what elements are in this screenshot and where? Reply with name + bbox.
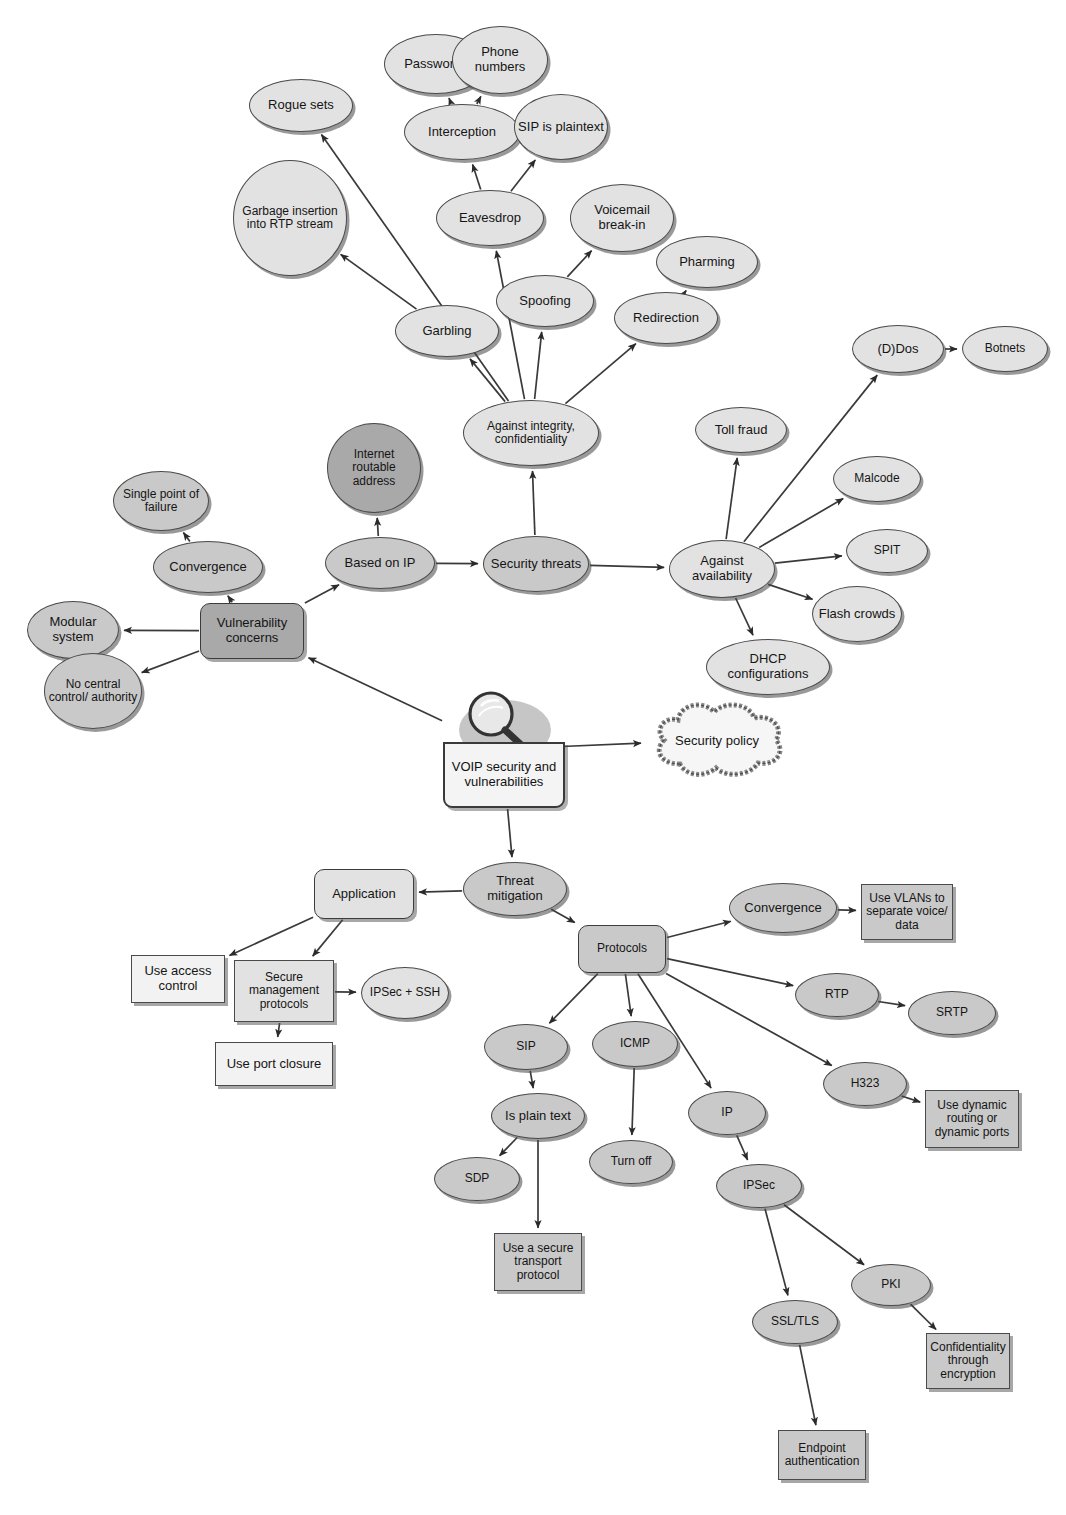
edge-eavesdrop-to-sip_is_plaintext	[511, 160, 535, 191]
node-label: Use VLANs to separate voice/ data	[862, 892, 952, 932]
node-garbage_insertion[interactable]: Garbage insertion into RTP stream	[233, 160, 347, 276]
node-endpoint_auth[interactable]: Endpoint authentication	[778, 1430, 866, 1480]
node-label: Voicemail break-in	[571, 203, 673, 232]
edge-against_availability-to-flash_crowds	[768, 584, 812, 599]
node-internet_routable[interactable]: Internet routable address	[327, 423, 421, 513]
edge-against_integrity-to-rogue_sets	[321, 135, 508, 401]
node-vulnerability_concerns[interactable]: Vulnerability concerns	[200, 603, 304, 659]
node-use_secure_transport[interactable]: Use a secure transport protocol	[494, 1233, 582, 1291]
node-no_central_control[interactable]: No central control/ authority	[44, 653, 142, 729]
edge-convergence_p-to-use_vlans	[838, 910, 856, 911]
node-single_point[interactable]: Single point of failure	[113, 471, 209, 531]
node-pki[interactable]: PKI	[851, 1264, 931, 1306]
node-ipsec_ssh[interactable]: IPSec + SSH	[361, 967, 449, 1019]
node-convergence_v[interactable]: Convergence	[153, 541, 263, 593]
node-label: SIP is plaintext	[515, 120, 607, 135]
node-pharming[interactable]: Pharming	[656, 236, 758, 288]
edge-interception-to-passwords	[449, 98, 451, 104]
edge-security_threats-to-against_integrity	[533, 471, 535, 535]
node-is_plain_text[interactable]: Is plain text	[491, 1093, 585, 1139]
node-use_port_closure[interactable]: Use port closure	[215, 1042, 333, 1086]
node-label: DHCP configurations	[707, 652, 829, 681]
node-label: Security policy	[675, 733, 759, 748]
node-redirection[interactable]: Redirection	[614, 292, 718, 344]
node-label: Phone numbers	[453, 45, 547, 74]
edge-application-to-secure_mgmt_protocols	[313, 920, 343, 956]
node-confidentiality[interactable]: Confidentiality through encryption	[926, 1333, 1010, 1389]
node-rtp[interactable]: RTP	[795, 973, 879, 1017]
node-label: Malcode	[851, 472, 902, 485]
node-label: Toll fraud	[712, 423, 771, 438]
node-sdp[interactable]: SDP	[434, 1157, 520, 1201]
node-label: Internet routable address	[328, 448, 420, 488]
node-based_on_ip[interactable]: Based on IP	[325, 537, 435, 589]
edge-against_integrity-to-redirection	[565, 344, 636, 404]
node-label: SSL/TLS	[768, 1315, 822, 1328]
node-modular_system[interactable]: Modular system	[27, 601, 119, 659]
node-label: Redirection	[630, 311, 702, 326]
node-rogue_sets[interactable]: Rogue sets	[249, 79, 353, 132]
node-label: Protocols	[594, 942, 650, 955]
node-ssl_tls[interactable]: SSL/TLS	[752, 1300, 838, 1344]
edge-vulnerability_concerns-to-convergence_v	[228, 596, 232, 602]
node-dhcp_configs[interactable]: DHCP configurations	[706, 639, 830, 695]
node-label: Botnets	[982, 342, 1029, 355]
node-voicemail_breakin[interactable]: Voicemail break-in	[570, 184, 674, 252]
node-srtp[interactable]: SRTP	[908, 991, 996, 1035]
node-interception[interactable]: Interception	[404, 104, 520, 160]
node-botnets[interactable]: Botnets	[962, 326, 1048, 372]
node-use_vlans[interactable]: Use VLANs to separate voice/ data	[861, 884, 953, 940]
node-phone_numbers[interactable]: Phone numbers	[452, 26, 548, 94]
node-threat_mitigation[interactable]: Threat mitigation	[463, 862, 567, 916]
node-label: H323	[848, 1077, 883, 1090]
node-security_policy[interactable]: Security policy	[646, 698, 788, 782]
node-spoofing[interactable]: Spoofing	[496, 275, 594, 327]
edge-against_integrity-to-eavesdrop	[496, 251, 524, 399]
edge-protocols-to-sip	[549, 974, 597, 1024]
edge-redirection-to-pharming	[685, 290, 687, 292]
node-against_availability[interactable]: Against availability	[669, 540, 775, 598]
node-label: Interception	[425, 125, 499, 140]
node-sip_is_plaintext[interactable]: SIP is plaintext	[514, 94, 608, 160]
node-protocols[interactable]: Protocols	[578, 925, 666, 973]
node-turn_off[interactable]: Turn off	[589, 1140, 673, 1184]
edge-secure_mgmt_protocols-to-use_port_closure	[278, 1023, 280, 1037]
node-ip[interactable]: IP	[688, 1091, 766, 1135]
node-h323[interactable]: H323	[823, 1062, 907, 1106]
edge-threat_mitigation-to-application	[419, 891, 462, 892]
node-label: Vulnerability concerns	[201, 616, 303, 645]
node-malcode[interactable]: Malcode	[833, 456, 921, 502]
node-spit[interactable]: SPIT	[846, 529, 928, 573]
node-eavesdrop[interactable]: Eavesdrop	[436, 190, 544, 246]
edge-spoofing-to-voicemail_breakin	[567, 251, 591, 277]
node-against_integrity[interactable]: Against integrity, confidentiality	[463, 400, 599, 466]
edge-pki-to-confidentiality	[911, 1304, 937, 1329]
node-label: Against availability	[670, 554, 774, 583]
edge-interception-to-phone_numbers	[477, 96, 481, 104]
edge-against_availability-to-dhcp_configs	[736, 598, 753, 635]
node-label: Use a secure transport protocol	[495, 1242, 581, 1282]
node-security_threats[interactable]: Security threats	[483, 536, 589, 592]
node-label: Turn off	[608, 1155, 655, 1168]
node-icmp[interactable]: ICMP	[592, 1021, 678, 1067]
node-toll_fraud[interactable]: Toll fraud	[695, 407, 787, 453]
node-secure_mgmt_protocols[interactable]: Secure management protocols	[234, 960, 334, 1022]
node-label: Secure management protocols	[235, 971, 333, 1011]
edge-vulnerability_concerns-to-no_central_control	[142, 651, 199, 673]
node-use_dynamic_routing[interactable]: Use dynamic routing or dynamic ports	[925, 1090, 1019, 1148]
node-application[interactable]: Application	[314, 869, 414, 919]
node-sip[interactable]: SIP	[484, 1024, 568, 1070]
node-flash_crowds[interactable]: Flash crowds	[812, 586, 902, 642]
node-label: Use port closure	[224, 1057, 325, 1072]
edge-security_threats-to-against_availability	[590, 565, 664, 567]
node-dos[interactable]: (D)Dos	[852, 325, 944, 373]
edge-protocols-to-rtp	[667, 959, 793, 986]
node-voip_central[interactable]: VOIP security and vulnerabilities	[443, 690, 561, 808]
node-label: SIP	[513, 1040, 538, 1053]
edge-garbling-to-garbage_insertion	[341, 254, 417, 309]
node-ipsec[interactable]: IPSec	[716, 1164, 802, 1208]
node-convergence_p[interactable]: Convergence	[729, 883, 837, 933]
node-use_access_control[interactable]: Use access control	[131, 955, 225, 1003]
node-label: Endpoint authentication	[779, 1442, 865, 1469]
node-garbling[interactable]: Garbling	[395, 305, 499, 357]
